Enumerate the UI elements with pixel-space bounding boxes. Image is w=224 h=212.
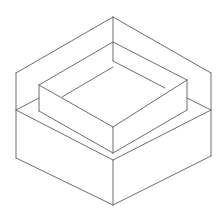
inner-wall-left-edge	[39, 42, 113, 85]
box-line-drawing	[0, 0, 224, 212]
inner-box-bottom-left	[39, 111, 113, 153]
base-bottom-left	[16, 158, 113, 205]
back-floor-left	[62, 67, 113, 97]
inner-box-top-right-front	[113, 80, 187, 127]
ledge-left-back	[16, 98, 39, 110]
base-top-left-front	[16, 110, 113, 160]
inner-box-top-left-front	[39, 85, 113, 127]
outer-top-right-edge	[113, 17, 211, 73]
isometric-box-diagram	[0, 0, 224, 212]
base-bottom-right	[113, 156, 211, 205]
ledge-right-back	[187, 98, 211, 110]
inner-box-bottom-right	[113, 110, 187, 153]
outer-top-left-edge	[16, 17, 113, 73]
inner-wall-right-edge	[113, 42, 187, 80]
